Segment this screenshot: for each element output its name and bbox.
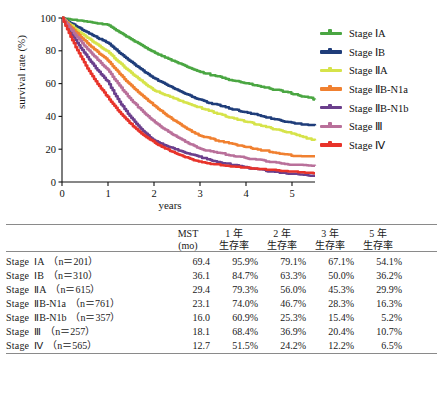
cell-year3: 28.3% — [306, 297, 354, 311]
svg-text:60: 60 — [46, 78, 57, 89]
svg-text:0: 0 — [51, 177, 56, 188]
row-stage-code: ⅡB-N1b — [34, 312, 66, 323]
header-year5-line2: 生存率 — [354, 240, 402, 252]
header-year5-line1: 5 年 — [354, 228, 402, 240]
cell-year1: 84.7% — [210, 269, 258, 283]
cell-year1: 68.4% — [210, 325, 258, 339]
row-n-value: （n＝310） — [48, 270, 98, 281]
cell-year2: 24.2% — [258, 339, 306, 353]
legend-label-stage-ia: Stage ⅠA — [349, 27, 386, 39]
header-mst: MST (mo) — [166, 228, 210, 252]
legend-swatch-stage-iv — [320, 143, 342, 146]
svg-text:1: 1 — [105, 188, 110, 199]
cell-year3: 12.2% — [306, 339, 354, 353]
row-n-value: （n＝201） — [48, 256, 98, 267]
legend-item-stage-ib: Stage ⅠB — [320, 43, 409, 62]
row-stage-word: Stage — [6, 340, 29, 351]
cell-year1: 79.3% — [210, 283, 258, 297]
header-year3: 3 年 生存率 — [306, 228, 354, 252]
cell-year2: 79.1% — [258, 255, 306, 269]
figure-survival-by-stage: 020406080100012345 survival rate (%) yea… — [0, 0, 443, 395]
legend-label-stage-iib-n1b: Stage ⅡB-N1b — [349, 102, 409, 114]
x-axis-title: years — [120, 199, 220, 211]
cell-year3: 20.4% — [306, 325, 354, 339]
cell-year5: 6.5% — [354, 339, 402, 353]
cell-pvalue-spacer — [402, 339, 437, 353]
row-stage-code: ⅠA — [34, 256, 44, 267]
table-row: StageⅡB-N1a（n＝761） 23.1 74.0% 46.7% 28.3… — [6, 297, 437, 311]
cell-pvalue-spacer — [402, 283, 437, 297]
svg-text:100: 100 — [40, 13, 56, 24]
row-stage-word: Stage — [6, 312, 29, 323]
row-label-stage-ia: StageⅠA（n＝201） — [6, 255, 166, 269]
legend-swatch-stage-ib — [320, 50, 342, 53]
row-n-value: （n＝761） — [70, 298, 120, 309]
row-n-value: （n＝565） — [47, 340, 97, 351]
table-rule-bottom — [6, 353, 437, 357]
row-stage-word: Stage — [6, 270, 29, 281]
svg-text:3: 3 — [197, 188, 202, 199]
legend-item-stage-iv: Stage Ⅳ — [320, 136, 409, 155]
cell-mst: 18.1 — [166, 325, 210, 339]
legend-label-stage-iia: Stage ⅡA — [349, 64, 388, 76]
legend-label-stage-ib: Stage ⅠB — [349, 46, 385, 58]
cell-year3: 45.3% — [306, 283, 354, 297]
table-row: StageⅡB-N1b（n＝357） 16.0 60.9% 25.3% 15.4… — [6, 311, 437, 325]
table-row: StageⅠB（n＝310） 36.1 84.7% 63.3% 50.0% 36… — [6, 269, 437, 283]
row-stage-code: ⅠB — [34, 270, 44, 281]
row-stage-word: Stage — [6, 284, 29, 295]
legend-swatch-stage-iib-n1b — [320, 106, 342, 109]
survival-curve-stage-a — [62, 18, 315, 140]
header-blank — [6, 228, 166, 252]
header-year5: 5 年 生存率 — [354, 228, 402, 252]
survival-curve-stage — [62, 18, 315, 166]
cell-year5: 29.9% — [354, 283, 402, 297]
row-n-value: （n＝357） — [70, 312, 120, 323]
cell-year2: 46.7% — [258, 297, 306, 311]
table-header-row: MST (mo) 1 年 生存率 2 年 生存率 3 年 生存率 — [6, 228, 437, 252]
table-row: StageⅢ（n＝257） 18.1 68.4% 36.9% 20.4% 10.… — [6, 325, 437, 339]
header-year3-line2: 生存率 — [306, 240, 354, 252]
legend-label-stage-iv: Stage Ⅳ — [349, 139, 385, 151]
cell-year5: 54.1% — [354, 255, 402, 269]
svg-text:4: 4 — [243, 188, 249, 199]
row-stage-code: Ⅳ — [34, 340, 43, 351]
row-label-stage-iv: StageⅣ（n＝565） — [6, 339, 166, 353]
row-label-stage-iib-n1b: StageⅡB-N1b（n＝357） — [6, 311, 166, 325]
legend-label-stage-iib-n1a: Stage ⅡB-N1a — [349, 83, 408, 95]
chart-legend: Stage ⅠA Stage ⅠB Stage ⅡA Stage ⅡB-N1a … — [320, 24, 409, 154]
row-label-stage-iii: StageⅢ（n＝257） — [6, 325, 166, 339]
row-stage-word: Stage — [6, 298, 29, 309]
cell-year3: 15.4% — [306, 311, 354, 325]
cell-year2: 36.9% — [258, 325, 306, 339]
cell-mst: 12.7 — [166, 339, 210, 353]
row-stage-word: Stage — [6, 326, 29, 337]
legend-item-stage-iii: Stage Ⅲ — [320, 117, 409, 136]
cell-pvalue-spacer — [402, 325, 437, 339]
legend-item-stage-iib-n1b: Stage ⅡB-N1b — [320, 98, 409, 117]
row-stage-code: Ⅲ — [34, 326, 41, 337]
header-year3-line1: 3 年 — [306, 228, 354, 240]
cell-year5: 36.2% — [354, 269, 402, 283]
svg-text:20: 20 — [46, 144, 57, 155]
table-row: StageⅣ（n＝565） 12.7 51.5% 24.2% 12.2% 6.5… — [6, 339, 437, 353]
row-stage-code: ⅡA — [34, 284, 46, 295]
header-year2-line2: 生存率 — [258, 240, 306, 252]
cell-mst: 69.4 — [166, 255, 210, 269]
header-mst-line1: MST — [166, 228, 210, 240]
cell-year5: 16.3% — [354, 297, 402, 311]
svg-text:40: 40 — [46, 111, 57, 122]
figure-caption — [0, 384, 443, 395]
cell-year1: 51.5% — [210, 339, 258, 353]
cell-mst: 16.0 — [166, 311, 210, 325]
legend-swatch-stage-iii — [320, 125, 342, 128]
header-year2-line1: 2 年 — [258, 228, 306, 240]
cell-year5: 5.2% — [354, 311, 402, 325]
svg-text:2: 2 — [151, 188, 156, 199]
cell-year1: 60.9% — [210, 311, 258, 325]
cell-year2: 25.3% — [258, 311, 306, 325]
cell-mst: 29.4 — [166, 283, 210, 297]
legend-swatch-stage-ia — [320, 32, 342, 35]
cell-year1: 74.0% — [210, 297, 258, 311]
row-label-stage-iia: StageⅡA（n＝615） — [6, 283, 166, 297]
